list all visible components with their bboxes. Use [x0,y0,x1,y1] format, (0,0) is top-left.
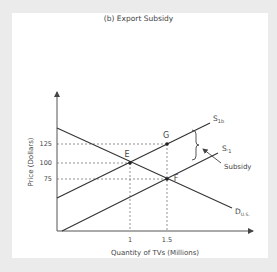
label-subsidy: Subsidy [224,163,252,171]
label-G: G [163,131,169,140]
x-axis-label: Quantity of TVs (Millions) [111,249,199,257]
demand-curve [57,128,232,208]
supply-curve-subsidy [62,153,218,231]
label-supply-subsidy: S'1 [222,144,231,154]
subsidy-arrow [203,149,221,163]
label-E: E [124,150,129,159]
point-G [165,142,169,146]
y-tick-75: 75 [44,175,52,183]
y-tick-100: 100 [40,159,52,167]
supply-curve-before [57,123,210,198]
subsidy-brace [192,130,199,160]
y-axis-label: Price (Dollars) [27,137,35,186]
x-tick-1: 1 [128,236,132,244]
label-supply-before: S1b [213,114,224,124]
x-tick-1-5: 1.5 [162,236,172,244]
chart-svg: 125 100 75 1 1.5 Quantity of TVs (Millio… [0,0,277,272]
y-tick-125: 125 [40,140,52,148]
point-E [128,161,132,165]
point-F [165,177,169,181]
label-demand: DU.S. [235,207,250,217]
label-F: F [174,174,179,183]
guide-lines [57,144,167,231]
